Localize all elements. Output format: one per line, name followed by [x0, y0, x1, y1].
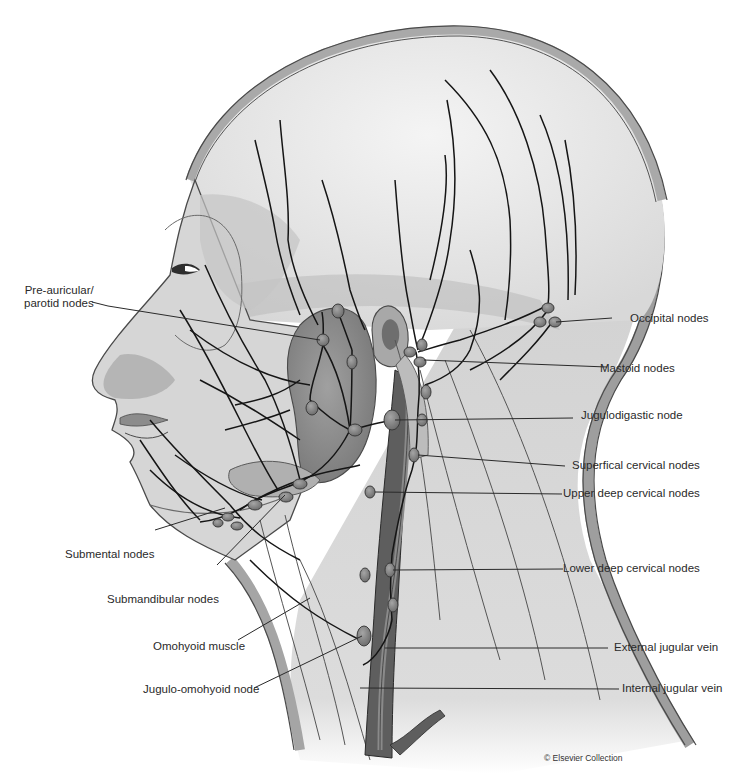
label-jugulodigastic-node: Jugulodigastic node: [581, 409, 683, 422]
label-line-2: parotid nodes: [24, 297, 94, 310]
head-neck-illustration: [0, 0, 739, 774]
figure-canvas: Pre-auricular/ parotid nodes Submental n…: [0, 0, 739, 774]
copyright-credit: © Elsevier Collection: [544, 753, 623, 763]
label-upper-deep-cervical-nodes: Upper deep cervical nodes: [563, 487, 700, 500]
label-submental-nodes: Submental nodes: [65, 548, 155, 561]
label-external-jugular-vein: External jugular vein: [614, 641, 718, 654]
label-superficial-cervical-nodes: Superfical cervical nodes: [572, 459, 700, 472]
label-submandibular-nodes: Submandibular nodes: [107, 593, 219, 606]
parotid-gland: [287, 308, 376, 482]
label-omohyoid-muscle: Omohyoid muscle: [153, 640, 245, 653]
label-jugulo-omohyoid-node: Jugulo-omohyoid node: [143, 683, 259, 696]
label-pre-auricular-parotid-nodes: Pre-auricular/ parotid nodes: [24, 284, 94, 310]
label-internal-jugular-vein: Internal jugular vein: [622, 682, 722, 695]
label-occipital-nodes: Occipital nodes: [630, 312, 709, 325]
label-mastoid-nodes: Mastoid nodes: [600, 362, 675, 375]
label-line-1: Pre-auricular/: [24, 284, 94, 297]
label-lower-deep-cervical-nodes: Lower deep cervical nodes: [563, 562, 700, 575]
